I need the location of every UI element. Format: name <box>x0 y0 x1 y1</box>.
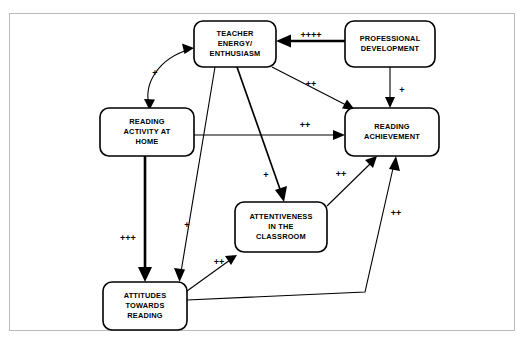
node-label-teacher-energy-line-3: ENTHUSIASM <box>210 49 261 58</box>
node-label-reading-achievement-line-1: READING <box>374 122 410 131</box>
node-label-professional-development-line-1: PROFESSIONAL <box>360 34 421 43</box>
causal-path-diagram: ++++ + + ++ ++ <box>0 0 526 346</box>
edge-label-teacher-energy-to-reading-activity-at-home: + <box>152 68 157 78</box>
node-label-professional-development-line-2: DEVELOPMENT <box>361 44 420 53</box>
edge-label-attitudes-towards-reading-to-reading-achievement: ++ <box>391 208 402 218</box>
node-label-attitudes-towards-reading-line-1: ATTITUDES <box>124 291 167 300</box>
edge-professional-development-to-teacher-energy: ++++ <box>276 30 345 48</box>
edge-attitudes-towards-reading-to-attentiveness: ++ <box>187 255 237 291</box>
node-attitudes-towards-reading[interactable]: ATTITUDES TOWARDS READING <box>103 282 187 330</box>
node-teacher-energy[interactable]: TEACHER ENERGY/ ENTHUSIASM <box>194 21 276 67</box>
edge-label-reading-activity-at-home-to-reading-achievement: ++ <box>300 120 311 130</box>
edge-attentiveness-to-reading-achievement: ++ <box>327 156 377 206</box>
edge-reading-activity-at-home-to-attitudes-towards-reading: +++ <box>120 156 152 282</box>
edge-professional-development-to-reading-achievement: + <box>385 67 405 108</box>
edge-teacher-energy-to-reading-activity-at-home: + <box>144 44 194 111</box>
edge-label-attentiveness-to-reading-achievement: ++ <box>336 169 347 179</box>
edge-label-teacher-energy-to-reading-achievement: ++ <box>306 79 317 89</box>
node-label-teacher-energy-line-1: TEACHER <box>216 29 254 38</box>
edge-label-professional-development-to-teacher-energy: ++++ <box>300 30 321 40</box>
node-label-attentiveness-line-2: IN THE <box>268 222 293 231</box>
edge-label-reading-activity-at-home-to-attitudes-towards-reading: +++ <box>120 233 136 243</box>
node-attentiveness-in-the-classroom[interactable]: ATTENTIVENESS IN THE CLASSROOM <box>235 202 327 252</box>
edge-label-professional-development-to-reading-achievement: + <box>399 85 404 95</box>
edge-label-teacher-energy-to-attitudes-towards-reading: + <box>184 220 189 230</box>
edge-label-teacher-energy-to-attentiveness: + <box>263 170 268 180</box>
node-label-reading-activity-at-home-line-2: ACTIVITY AT <box>124 127 171 136</box>
edge-teacher-energy-to-attitudes-towards-reading: + <box>174 67 215 282</box>
node-label-attentiveness-line-3: CLASSROOM <box>256 232 306 241</box>
node-professional-development[interactable]: PROFESSIONAL DEVELOPMENT <box>345 21 435 67</box>
edge-reading-activity-at-home-to-reading-achievement: ++ <box>194 120 345 140</box>
node-label-attitudes-towards-reading-line-3: READING <box>127 311 163 320</box>
figure-page: ++++ + + ++ ++ <box>0 0 526 346</box>
edge-teacher-energy-to-reading-achievement: ++ <box>272 67 355 110</box>
node-reading-achievement[interactable]: READING ACHIEVEMENT <box>345 108 439 156</box>
edge-label-attitudes-towards-reading-to-attentiveness: ++ <box>214 257 225 267</box>
node-label-attitudes-towards-reading-line-2: TOWARDS <box>125 301 164 310</box>
node-reading-activity-at-home[interactable]: READING ACTIVITY AT HOME <box>100 108 194 156</box>
node-label-reading-activity-at-home-line-1: READING <box>129 117 165 126</box>
node-label-reading-achievement-line-2: ACHIEVEMENT <box>364 132 420 141</box>
node-label-teacher-energy-line-2: ENERGY/ <box>218 39 253 48</box>
node-label-attentiveness-line-1: ATTENTIVENESS <box>249 212 312 221</box>
node-label-reading-activity-at-home-line-3: HOME <box>136 137 159 146</box>
